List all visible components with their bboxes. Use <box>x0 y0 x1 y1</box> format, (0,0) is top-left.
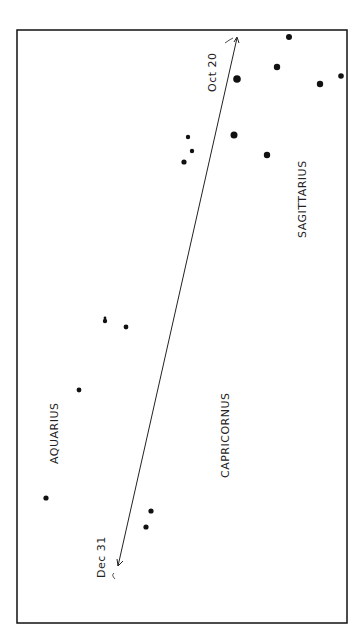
star <box>186 135 190 139</box>
star <box>124 325 129 330</box>
star <box>43 495 48 500</box>
stars <box>43 34 343 530</box>
label-sagittarius: SAGITTARIUS <box>296 160 309 238</box>
star <box>274 64 280 70</box>
label-capricornus: CAPRICORNUS <box>219 393 232 478</box>
star <box>317 81 323 87</box>
chart-frame <box>17 30 347 623</box>
label-aquarius: AQUARIUS <box>48 403 61 465</box>
star <box>148 508 153 513</box>
star <box>181 159 186 164</box>
star <box>190 149 194 153</box>
star <box>233 75 241 83</box>
star-chart: Oct 20 Dec 31 SAGITTARIUS CAPRICORNUS AQ… <box>0 0 360 629</box>
label-oct-20: Oct 20 <box>206 52 219 92</box>
star <box>264 152 270 158</box>
label-dec-31: Dec 31 <box>95 536 108 578</box>
path-end-arrow-icon <box>117 559 123 566</box>
oct-label-leader <box>225 38 233 43</box>
star <box>143 524 148 529</box>
star <box>77 388 82 393</box>
star <box>104 317 107 320</box>
star <box>338 73 344 79</box>
dec-label-leader <box>113 573 115 579</box>
motion-path-line <box>118 38 237 566</box>
star <box>231 132 238 139</box>
star <box>103 319 107 323</box>
star <box>286 34 292 40</box>
